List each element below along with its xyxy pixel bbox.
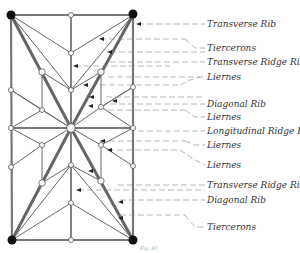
vault-rib-diagram: Transverse Rib Tiercerons Transverse Rid… [0, 0, 300, 253]
label-longitudinal-ridge-rib: Longitudinal Ridge Rib [206, 126, 300, 136]
label-transverse-ridge-rib-upper: Transverse Ridge Rib [207, 57, 300, 67]
label-transverse-rib: Transverse Rib [207, 19, 276, 29]
rib-labels: Transverse Rib Tiercerons Transverse Rid… [206, 19, 300, 232]
label-transverse-ridge-rib-lower: Transverse Ridge Rib [207, 180, 300, 190]
label-liernes-4: Liernes [206, 160, 242, 170]
label-liernes-2: Liernes [206, 112, 242, 122]
label-liernes-3: Liernes [206, 140, 242, 150]
label-tiercerons-lower: Tiercerons [207, 222, 256, 232]
label-diagonal-rib-upper: Diagonal Rib [206, 99, 266, 109]
leader-lines [75, 24, 205, 227]
label-tiercerons-upper: Tiercerons [207, 43, 256, 53]
label-liernes-1: Liernes [206, 72, 242, 82]
label-diagonal-rib-lower: Diagonal Rib [206, 195, 266, 205]
figure-caption: Fig. 81 [139, 245, 158, 252]
